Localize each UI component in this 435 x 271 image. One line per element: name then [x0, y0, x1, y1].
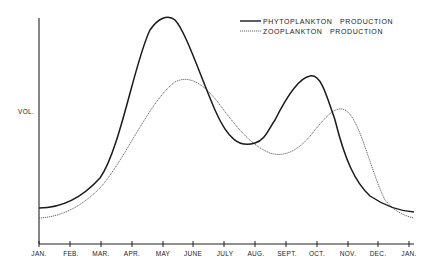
y-axis-label: VOL.	[18, 108, 34, 115]
month-label: FEB.	[63, 250, 79, 257]
month-label: DEC.	[370, 250, 387, 257]
phytoplankton-curve	[39, 17, 414, 212]
month-label: NOV.	[340, 250, 357, 257]
legend-phyto-label: PHYTOPLANKTON PRODUCTION	[263, 18, 393, 25]
legend-zoo-label: ZOOPLANKTON PRODUCTION	[263, 28, 383, 35]
month-label: JUNE	[184, 250, 203, 257]
month-label: APR.	[124, 250, 140, 257]
month-label: MAR.	[92, 250, 109, 257]
month-label: JULY	[217, 250, 234, 257]
zooplankton-curve	[39, 79, 414, 218]
legend: PHYTOPLANKTON PRODUCTION ZOOPLANKTON PRO…	[240, 18, 393, 35]
month-label: JAN.	[31, 250, 46, 257]
month-label: OCT.	[309, 250, 325, 257]
month-label: MAY	[156, 250, 171, 257]
month-label: SEPT.	[277, 250, 297, 257]
month-label: JAN.	[401, 250, 416, 257]
plankton-chart: VOL. JAN. FEB. MAR. APR. MAY JUNE JULY A…	[0, 0, 435, 271]
month-label: AUG.	[247, 250, 264, 257]
x-tick-labels: JAN. FEB. MAR. APR. MAY JUNE JULY AUG. S…	[31, 250, 416, 257]
